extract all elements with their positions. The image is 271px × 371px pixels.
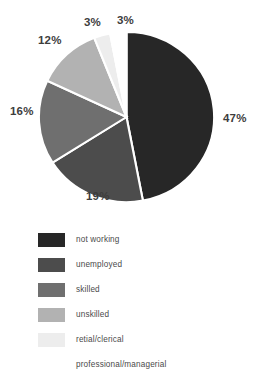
- pie-chart-svg: [38, 31, 215, 203]
- slice-label-retail-clerical: 3%: [84, 16, 101, 28]
- slice-label-professional-managerial: 3%: [117, 14, 134, 26]
- slice-label-unskilled: 12%: [38, 34, 62, 46]
- legend-label: unskilled: [76, 310, 109, 319]
- legend-item: professional/managerial: [38, 352, 248, 371]
- legend-swatch: [38, 358, 65, 371]
- legend-swatch: [38, 333, 65, 347]
- legend-label: retial/clerical: [76, 335, 124, 344]
- legend-item: unskilled: [38, 302, 248, 327]
- legend-swatch: [38, 308, 65, 322]
- legend-swatch: [38, 233, 65, 247]
- legend-label: unemployed: [76, 260, 122, 269]
- pie-slice-group: [39, 32, 214, 202]
- chart-title: [0, 0, 271, 5]
- legend-swatch: [38, 258, 65, 272]
- legend-item: unemployed: [38, 252, 248, 277]
- legend-item: skilled: [38, 277, 248, 302]
- legend-swatch: [38, 283, 65, 297]
- slice-label-unemployed: 19%: [86, 190, 110, 202]
- legend-label: professional/managerial: [76, 360, 166, 369]
- slice-label-skilled: 16%: [10, 105, 34, 117]
- pie-slice: [127, 32, 215, 201]
- pie-chart: [38, 31, 215, 203]
- legend-item: not working: [38, 227, 248, 252]
- chart-legend: not workingunemployedskilledunskilledret…: [38, 227, 248, 371]
- legend-label: not working: [76, 235, 120, 244]
- legend-item: retial/clerical: [38, 327, 248, 352]
- slice-label-not-working: 47%: [223, 112, 247, 124]
- legend-label: skilled: [76, 285, 100, 294]
